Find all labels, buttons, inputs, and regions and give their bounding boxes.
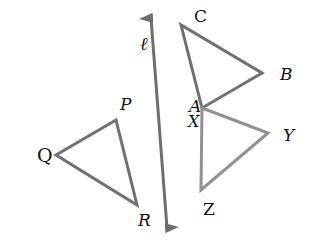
line-l [151, 18, 167, 228]
reflection-diagram: ℓ C B A X Y Z P Q R [0, 0, 313, 240]
triangle-pqr [56, 120, 137, 205]
vertex-label-r: R [137, 210, 151, 230]
vertex-label-p: P [119, 94, 132, 114]
line-l-label: ℓ [140, 33, 148, 54]
vertex-label-z: Z [203, 199, 215, 219]
vertex-label-b: B [279, 64, 293, 84]
triangle-xyz [201, 108, 268, 190]
vertex-label-x: X [186, 112, 200, 131]
vertex-label-q: Q [37, 144, 53, 166]
vertex-label-c: C [194, 6, 207, 26]
vertex-label-y: Y [283, 125, 296, 145]
